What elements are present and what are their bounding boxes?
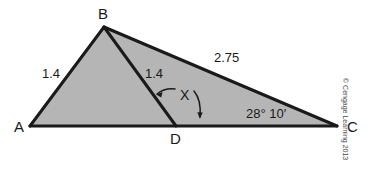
- angle-label-x: X: [180, 88, 189, 102]
- vertex-label-A: A: [14, 119, 24, 134]
- copyright-notice: © Cengage Learning 2013: [342, 78, 349, 160]
- measure-label-BD: 1.4: [145, 67, 163, 80]
- triangle-fill: [30, 27, 337, 126]
- vertex-label-B: B: [98, 6, 108, 21]
- angle-label-at-C: 28° 10′: [246, 107, 286, 120]
- measure-label-AB: 1.4: [42, 67, 60, 80]
- geometry-figure: A B C D 1.4 1.4 2.75 X 28° 10′ © Cengage…: [0, 0, 377, 187]
- vertex-label-D: D: [170, 131, 181, 146]
- measure-label-BC: 2.75: [214, 51, 239, 64]
